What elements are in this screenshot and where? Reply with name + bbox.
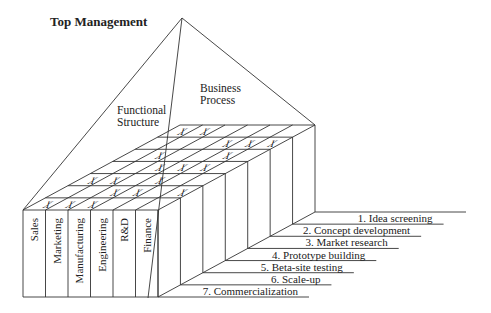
- diagram-title: Top Management: [50, 14, 148, 29]
- matrix-mark: X: [175, 163, 191, 174]
- process-step-label: 4. Prototype building: [272, 249, 366, 261]
- business-process-label-line2: Process: [200, 94, 236, 106]
- matrix-mark: X: [152, 150, 168, 161]
- matrix-mark: X: [153, 175, 169, 186]
- matrix-mark: X: [108, 187, 124, 198]
- process-step-label: 2. Concept development: [303, 224, 410, 236]
- process-step-labels: 1. Idea screening2. Concept development3…: [158, 212, 466, 297]
- pyramid-center-edge: [148, 18, 182, 298]
- matrix-mark: X: [175, 126, 191, 137]
- process-step-label: 3. Market research: [306, 236, 389, 248]
- matrix-mark: X: [265, 138, 281, 149]
- process-step-label: 7. Commercialization: [203, 285, 299, 297]
- function-label: R&D: [118, 218, 130, 242]
- matrix-mark: X: [198, 163, 214, 174]
- grid-col-line: [68, 125, 225, 210]
- functional-structure-label-line2: Structure: [117, 116, 159, 128]
- matrix-mark: X: [85, 175, 101, 186]
- function-label: Marketing: [51, 218, 63, 264]
- pyramid-right-edge: [182, 18, 315, 125]
- function-label: Engineering: [96, 218, 108, 272]
- grid-col-line: [23, 125, 180, 210]
- matrix-mark: X: [242, 138, 258, 149]
- matrix-pyramid-diagram: Top Management Functional Structure Busi…: [0, 0, 491, 313]
- matrix-mark: X: [220, 150, 236, 161]
- functional-structure-label-line1: Functional: [117, 104, 166, 116]
- matrix-mark: X: [220, 138, 236, 149]
- matrix-mark: X: [197, 126, 213, 137]
- process-step-label: 1. Idea screening: [358, 212, 433, 224]
- matrix-mark: X: [130, 187, 146, 198]
- process-step-label: 5. Beta-site testing: [261, 261, 344, 273]
- matrix-mark: X: [63, 199, 79, 210]
- matrix-mark: X: [85, 199, 101, 210]
- matrix-mark: X: [40, 199, 56, 210]
- function-label: Sales: [28, 218, 40, 241]
- matrix-mark: X: [175, 187, 191, 198]
- matrix-mark: X: [108, 175, 124, 186]
- business-process-label-line1: Business: [200, 82, 241, 94]
- process-step-label: 6. Scale-up: [271, 273, 321, 285]
- function-label: Manufacturing: [73, 218, 85, 284]
- matrix-mark: X: [153, 163, 169, 174]
- function-label: Finance: [141, 218, 153, 253]
